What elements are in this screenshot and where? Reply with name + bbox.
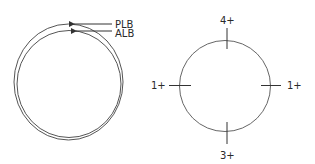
plb-outline (14, 24, 123, 140)
grade-right-label: 1+ (287, 80, 302, 91)
left-figure: PLB ALB (14, 19, 134, 140)
grade-top-label: 4+ (220, 15, 235, 26)
grade-left-label: 1+ (151, 80, 166, 91)
alb-label: ALB (115, 28, 134, 39)
grading-circle (180, 41, 271, 132)
grade-bottom-label: 3+ (220, 150, 235, 161)
right-figure: 4+ 3+ 1+ 1+ (151, 15, 302, 161)
diagram-canvas: PLB ALB 4+ 3+ 1+ 1+ (0, 0, 315, 164)
alb-outline (17, 31, 121, 138)
